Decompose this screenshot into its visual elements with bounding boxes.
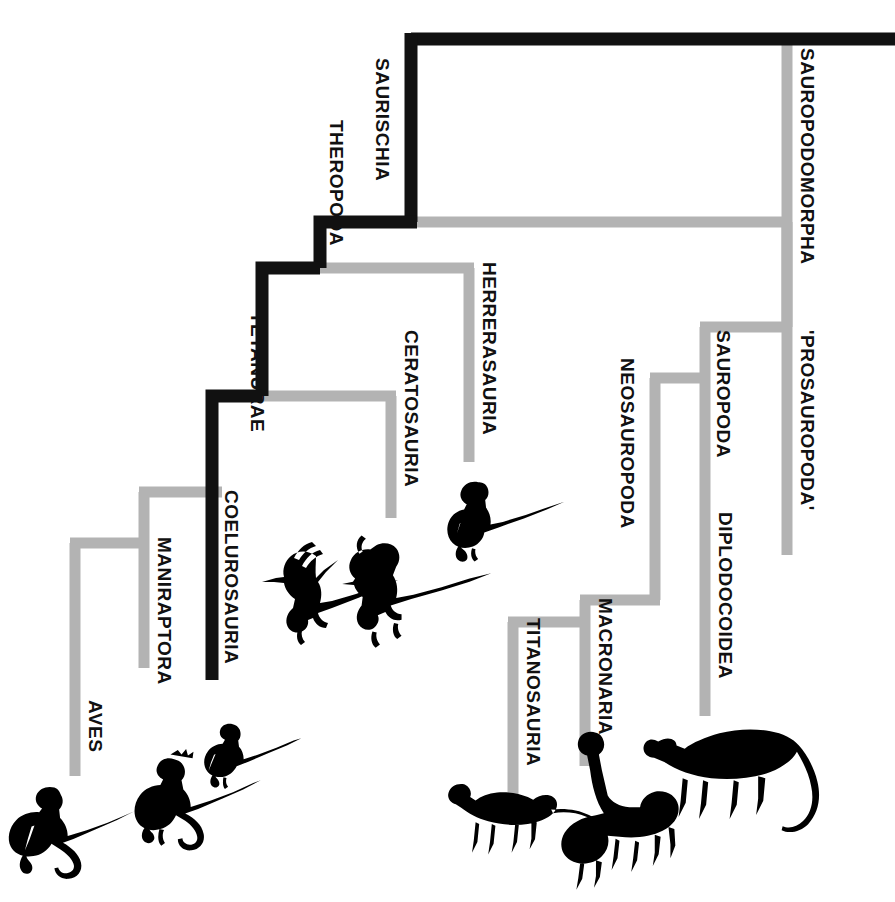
label-sauropodomorpha: SAUROPODOMORPHA [798, 48, 817, 265]
label-prosauropoda: 'PROSAUROPODA' [798, 330, 817, 511]
label-sauropoda: SAUROPODA [714, 330, 733, 458]
silhouette-allosauroid [342, 535, 491, 647]
cladogram-figure: SAURISCHIA THEROPODA TETANURAE COELUROSA… [0, 0, 895, 902]
label-theropoda: THEROPODA [327, 120, 346, 246]
label-macronaria: MACRONARIA [596, 598, 615, 735]
label-aves: AVES [86, 700, 105, 752]
gray-branches [70, 40, 792, 810]
label-titanosauria: TITANOSAURIA [524, 618, 543, 766]
label-herrerasauria: HERRERASAURIA [480, 262, 499, 435]
silhouette-bird-aves-1 [9, 787, 134, 879]
label-coelurosauria: COELUROSAURIA [222, 490, 241, 664]
label-tetanurae: TETANURAE [248, 312, 267, 432]
silhouette-maniraptoran [204, 724, 301, 789]
label-maniraptora: MANIRAPTORA [155, 537, 174, 685]
silhouette-herrerasaurid [447, 482, 564, 562]
cladogram-canvas [0, 0, 895, 902]
label-saurischia: SAURISCHIA [373, 58, 392, 181]
label-diplodocoidea: DIPLODOCOIDEA [716, 512, 735, 679]
spine-theropoda-stem [262, 268, 320, 396]
label-ceratosauria: CERATOSAURIA [402, 330, 421, 487]
label-neosauropoda: NEOSAUROPODA [618, 358, 637, 529]
